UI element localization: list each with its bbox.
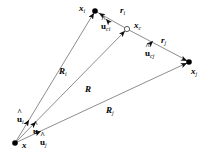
node-point-i — [92, 8, 98, 14]
label-unit-u-cj-sub: cj — [150, 53, 154, 59]
label-point-i: xi — [79, 4, 85, 13]
label-point-c-sub: c — [139, 25, 142, 31]
label-point-j-sub: j — [196, 71, 198, 77]
edge-r-j — [127, 29, 188, 61]
label-vector-r-i: ri — [120, 6, 125, 15]
label-vector-R-i: Ri — [59, 67, 67, 76]
label-unit-u-hatwrap: ^u — [33, 127, 38, 136]
label-point-c: xc — [134, 21, 141, 30]
label-point-c-base: x — [134, 20, 139, 30]
label-unit-u-i-sub: i — [22, 119, 24, 125]
label-vector-r-j-sub: j — [165, 40, 167, 46]
hat-accent-icon: ^ — [40, 132, 45, 140]
label-vector-r-j-base: r — [161, 35, 165, 45]
label-unit-u: ^u — [33, 127, 38, 136]
label-unit-u-cj: ^ucj — [145, 49, 154, 58]
label-vector-r-i-base: r — [120, 5, 124, 15]
hat-accent-icon: ^ — [101, 16, 106, 24]
vector-geometry-diagram: xi xc xj x Ri R Rj ri rj ^ui ^u ^uj — [0, 0, 215, 159]
label-unit-u-j-sub: j — [45, 142, 47, 148]
label-vector-R-i-sub: i — [65, 71, 67, 77]
label-vector-r-i-sub: i — [124, 10, 126, 16]
label-origin-base: x — [22, 140, 27, 150]
label-point-i-sub: i — [84, 8, 86, 14]
label-point-j-base: x — [191, 66, 196, 76]
hat-accent-icon: ^ — [33, 121, 38, 129]
label-unit-u-j: ^uj — [40, 138, 47, 147]
edge-R-i — [15, 11, 95, 143]
edge-R — [15, 29, 127, 143]
label-vector-r-j: rj — [161, 36, 166, 45]
label-vector-R-j: Rj — [106, 106, 114, 115]
label-point-i-base: x — [79, 3, 84, 13]
label-unit-u-ci: ^uci — [101, 22, 110, 31]
label-vector-R: R — [85, 85, 91, 94]
label-vector-R-j-sub: j — [112, 110, 114, 116]
label-unit-u-ci-sub: ci — [106, 26, 110, 32]
node-point-j — [186, 59, 192, 65]
label-unit-u-i: ^ui — [17, 115, 24, 124]
node-origin — [12, 140, 18, 146]
label-origin: x — [22, 141, 27, 150]
label-point-j: xj — [191, 67, 197, 76]
hat-accent-icon: ^ — [17, 109, 22, 117]
arrow-r-j-head — [177, 56, 187, 61]
node-point-c — [124, 26, 129, 31]
hat-accent-icon: ^ — [145, 43, 150, 51]
label-vector-R-base: R — [85, 84, 91, 94]
